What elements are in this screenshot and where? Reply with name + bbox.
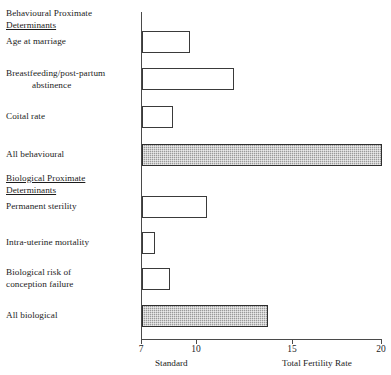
bar-label-text-line2: conception failure bbox=[6, 279, 138, 291]
bar-permanent-sterility bbox=[142, 196, 207, 218]
x-axis-caption-standard: Standard bbox=[155, 358, 188, 369]
bar-label-text-line2: abstinence bbox=[6, 80, 138, 92]
bar-age-at-marriage bbox=[142, 31, 190, 53]
bar-biological-risk bbox=[142, 268, 170, 290]
bar-label-text: Permanent sterility bbox=[6, 201, 138, 213]
bar-label-breastfeeding: Breastfeeding/post-partum abstinence bbox=[6, 68, 138, 91]
x-axis-line bbox=[141, 339, 381, 340]
group-heading-behavioural-line1: Behavioural Proximate bbox=[6, 8, 138, 20]
bar-label-text: Age at marriage bbox=[6, 36, 138, 48]
bar-label-all-behavioural: All behavioural bbox=[6, 149, 138, 161]
x-ticklabel-10: 10 bbox=[181, 344, 211, 355]
bar-all-behavioural bbox=[142, 144, 382, 166]
bar-label-permanent-sterility: Permanent sterility bbox=[6, 201, 138, 213]
bar-label-all-biological: All biological bbox=[6, 310, 138, 322]
bar-all-biological bbox=[142, 305, 268, 327]
bar-intra-uterine-mortality bbox=[142, 232, 155, 254]
group-heading-biological-line2: Determinants bbox=[6, 185, 138, 197]
bar-label-text: Breastfeeding/post-partum bbox=[6, 68, 138, 80]
group-heading-behavioural: Behavioural Proximate Determinants bbox=[6, 8, 138, 31]
bar-breastfeeding bbox=[142, 68, 234, 90]
bar-label-intra-uterine-mortality: Intra-uterine mortality bbox=[6, 237, 138, 249]
x-ticklabel-7: 7 bbox=[126, 344, 156, 355]
fertility-bar-chart: Behavioural Proximate Determinants Age a… bbox=[0, 0, 391, 375]
bar-label-text: All behavioural bbox=[6, 149, 138, 161]
bar-label-text: Biological risk of bbox=[6, 267, 138, 279]
bar-label-text: Intra-uterine mortality bbox=[6, 237, 138, 249]
group-heading-behavioural-line2: Determinants bbox=[6, 20, 138, 32]
bar-label-coital-rate: Coital rate bbox=[6, 111, 138, 123]
bar-label-age-at-marriage: Age at marriage bbox=[6, 36, 138, 48]
x-ticklabel-20: 20 bbox=[366, 344, 391, 355]
bar-label-text: Coital rate bbox=[6, 111, 138, 123]
group-heading-biological-line1: Biological Proximate bbox=[6, 173, 138, 185]
bar-label-text: All biological bbox=[6, 310, 138, 322]
bar-coital-rate bbox=[142, 106, 173, 128]
x-ticklabel-15: 15 bbox=[277, 344, 307, 355]
x-axis-label: Total Fertility Rate bbox=[282, 358, 352, 369]
bar-label-biological-risk: Biological risk of conception failure bbox=[6, 267, 138, 290]
group-heading-biological: Biological Proximate Determinants bbox=[6, 173, 138, 196]
